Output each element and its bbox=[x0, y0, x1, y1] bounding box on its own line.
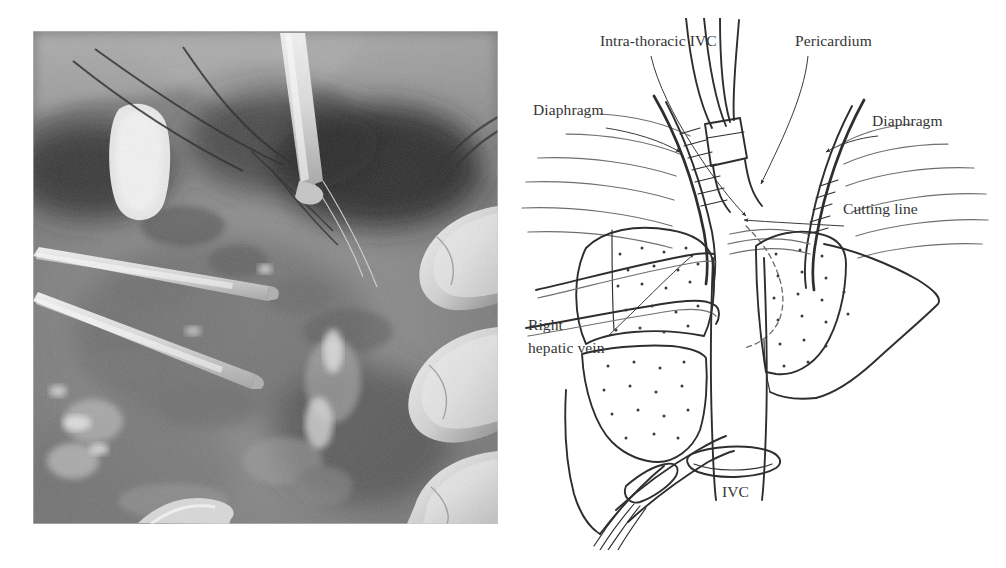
photograph-canvas bbox=[33, 31, 498, 524]
figure-root: Intra-thoracic IVC Pericardium Diaphragm… bbox=[0, 0, 1006, 568]
label-ivc: IVC bbox=[722, 483, 749, 500]
diaphragm-crus-right bbox=[805, 100, 864, 290]
film-grain-overlay bbox=[33, 31, 498, 524]
schematic-line-diagram: Intra-thoracic IVC Pericardium Diaphragm… bbox=[508, 18, 1006, 550]
leader-pericardium bbox=[761, 56, 808, 184]
leader-diaphragm-left bbox=[606, 128, 680, 152]
leader-right-hepatic-vein bbox=[608, 254, 694, 336]
diaphragm-right-leaf bbox=[838, 124, 988, 258]
label-diaphragm-left: Diaphragm bbox=[533, 101, 604, 118]
label-pericardium: Pericardium bbox=[795, 32, 872, 49]
leader-cutting-line bbox=[744, 220, 844, 226]
intraoperative-photograph bbox=[33, 31, 498, 524]
diagram-canvas: Intra-thoracic IVC Pericardium Diaphragm… bbox=[508, 18, 1006, 550]
leader-intra-thoracic-ivc bbox=[651, 56, 746, 216]
pericardium bbox=[728, 230, 810, 255]
label-right-hepatic-vein-line1: Right bbox=[528, 316, 564, 333]
infra-hepatic-ivc bbox=[711, 258, 767, 500]
cutting-line-dashed bbox=[744, 226, 783, 348]
label-diaphragm-right: Diaphragm bbox=[872, 112, 943, 129]
label-right-hepatic-vein-line2: hepatic vein bbox=[528, 339, 605, 356]
label-cutting-line: Cutting line bbox=[843, 200, 918, 217]
leader-lines bbox=[606, 56, 878, 336]
label-intra-thoracic-ivc: Intra-thoracic IVC bbox=[600, 32, 717, 49]
diaphragm-left-leaf bbox=[522, 114, 690, 248]
